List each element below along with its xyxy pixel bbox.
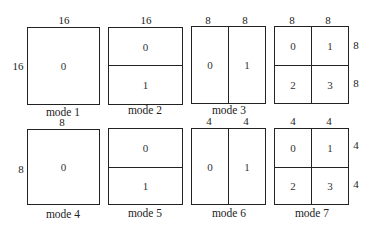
mode7-block: 0 1 2 3	[274, 128, 349, 205]
partition-0: 0	[109, 28, 182, 65]
mode7-caption: mode 7	[272, 207, 352, 219]
partition-3: 3	[312, 66, 348, 103]
quad-width-label-left: 8	[286, 15, 298, 26]
mode3-block: 0 1	[191, 26, 266, 104]
partition-0: 0	[192, 27, 228, 103]
mode7-width-label-left: 4	[287, 116, 299, 127]
mode4-block: 0	[27, 129, 100, 205]
mode6-width-label-left: 4	[203, 116, 215, 127]
quad-height-label-top: 8	[351, 40, 361, 51]
partition-1: 1	[312, 129, 348, 167]
mode2-caption: mode 2	[105, 104, 185, 116]
mode3-caption: mode 3	[189, 104, 269, 116]
mode7-height-label-top: 4	[351, 140, 361, 151]
partition-0: 0	[28, 130, 99, 204]
partition-1: 1	[312, 27, 348, 65]
mode5-caption: mode 5	[105, 207, 185, 219]
mode6-caption: mode 6	[189, 207, 269, 219]
mode1-width-label: 16	[52, 15, 76, 26]
quad-height-label-bottom: 8	[351, 78, 361, 89]
quad-width-label-right: 8	[322, 15, 334, 26]
partition-2: 2	[275, 168, 311, 204]
partition-0: 0	[28, 28, 99, 104]
mode2-block: 0 1	[108, 27, 183, 105]
mode3-width-label-left: 8	[202, 15, 214, 26]
partition-0: 0	[192, 129, 228, 204]
partition-0: 0	[275, 27, 311, 65]
mode4-caption: mode 4	[23, 208, 103, 220]
mode7-height-label-bottom: 4	[351, 179, 361, 190]
mode1-height-label: 16	[10, 61, 26, 72]
mode7-width-label-right: 4	[323, 116, 335, 127]
partition-1: 1	[109, 66, 182, 104]
partition-1: 1	[109, 168, 182, 204]
mode1-block: 0	[27, 27, 100, 105]
partition-2: 2	[275, 66, 311, 103]
mode2-width-label: 16	[134, 15, 158, 26]
quad-block: 0 1 2 3	[274, 26, 349, 104]
partition-0: 0	[275, 129, 311, 167]
mode4-width-label: 8	[56, 117, 68, 128]
partition-3: 3	[312, 168, 348, 204]
partition-0: 0	[109, 129, 182, 167]
mode5-block: 0 1	[108, 128, 183, 205]
mode6-width-label-right: 4	[240, 116, 252, 127]
mode3-width-label-right: 8	[239, 15, 251, 26]
mode4-height-label: 8	[16, 164, 26, 175]
partition-1: 1	[229, 27, 265, 103]
partition-1: 1	[229, 129, 265, 204]
mode6-block: 0 1	[191, 128, 266, 205]
